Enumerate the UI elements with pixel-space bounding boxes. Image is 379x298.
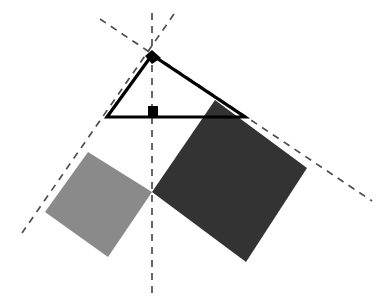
geometry-figure — [0, 0, 379, 298]
right-angle-marker — [148, 106, 158, 116]
geometry-canvas — [0, 0, 379, 298]
